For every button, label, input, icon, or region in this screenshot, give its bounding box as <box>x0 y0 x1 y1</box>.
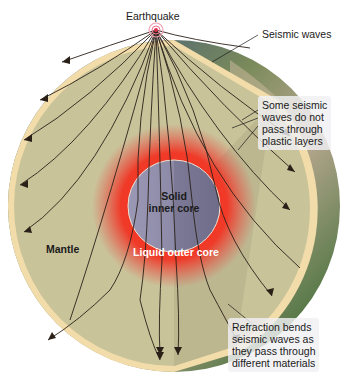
refraction-note: Refraction bends seismic waves as they p… <box>228 318 319 372</box>
plastic-layers-note: Some seismic waves do not pass through p… <box>258 96 331 150</box>
outer-core-label: Liquid outer core <box>116 246 236 258</box>
seismic-waves-label: Seismic waves <box>262 28 331 40</box>
earthquake-label: Earthquake <box>126 10 180 22</box>
mantle-label: Mantle <box>46 243 79 255</box>
earth-cross-section-diagram: Earthquake Seismic waves Some seismic wa… <box>0 0 348 377</box>
inner-core-label: Solid inner core <box>148 190 200 214</box>
